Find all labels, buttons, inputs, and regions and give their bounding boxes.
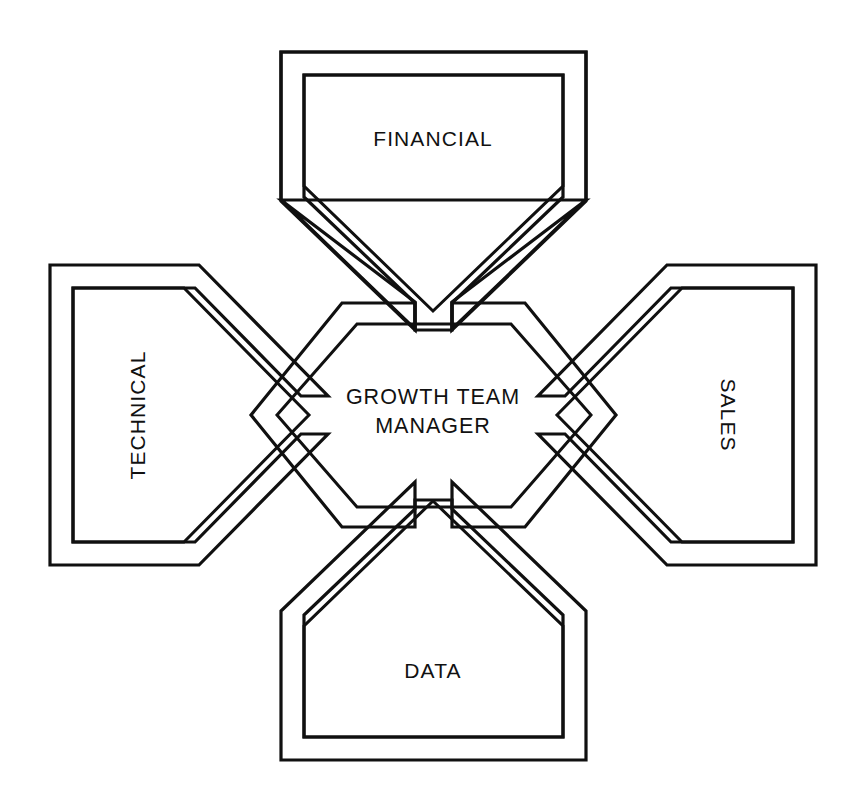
data-outer-outline	[281, 482, 586, 760]
technical-inner-outline	[73, 288, 309, 542]
data-inner-outline	[304, 501, 563, 737]
sales-outer-outline	[538, 265, 816, 565]
arm-data[interactable]: DATA	[281, 482, 586, 760]
sales-label: SALES	[717, 378, 740, 451]
technical-label: TECHNICAL	[126, 351, 149, 480]
arm-financial[interactable]: FINANCIAL	[281, 52, 586, 330]
center-label-line1: GROWTH TEAM	[346, 385, 520, 409]
arm-technical[interactable]: TECHNICAL	[50, 265, 328, 565]
center-node-growth-team-manager[interactable]: GROWTH TEAM MANAGER	[251, 303, 616, 527]
financial-inner-outline	[304, 75, 563, 311]
data-label: DATA	[404, 659, 461, 682]
outer-contour-path	[281, 52, 586, 329]
diagram-canvas: FINANCIAL DATA TECHNICAL SALES GROWTH TE…	[0, 0, 866, 799]
financial-outer-outline	[281, 52, 586, 330]
financial-label: FINANCIAL	[373, 127, 493, 150]
arm-sales[interactable]: SALES	[538, 265, 816, 565]
org-structure-diagram: FINANCIAL DATA TECHNICAL SALES GROWTH TE…	[0, 0, 866, 799]
outer-contour-group	[281, 52, 586, 329]
center-label-line2: MANAGER	[375, 414, 491, 438]
technical-outer-outline	[50, 265, 328, 565]
